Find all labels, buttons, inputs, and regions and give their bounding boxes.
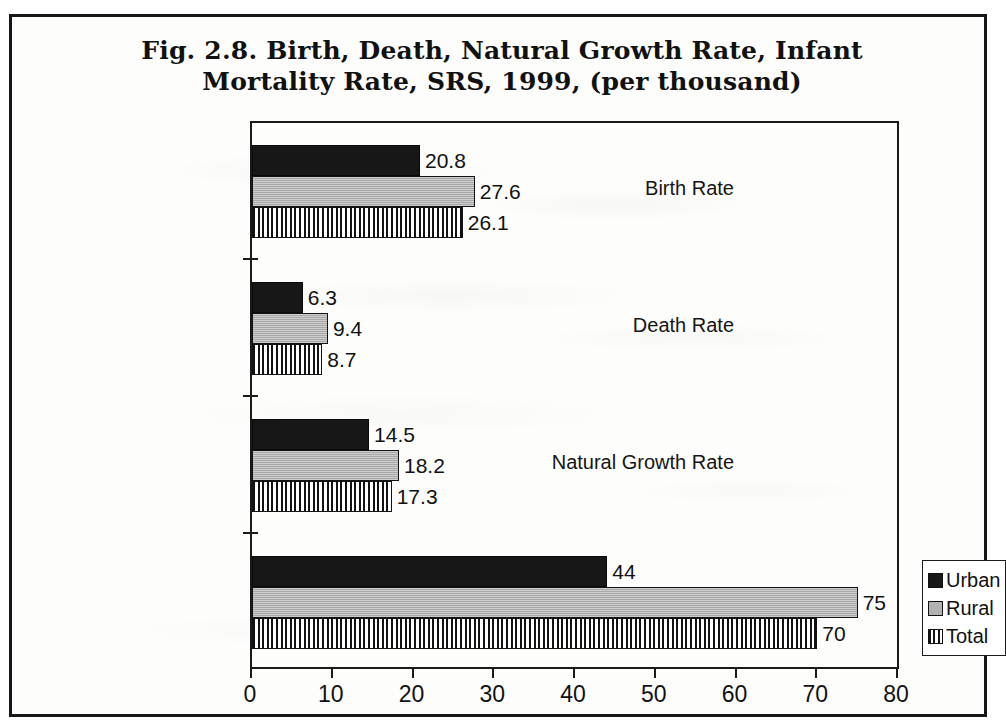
bar-rural[interactable]: [252, 176, 475, 207]
bar-row: 70: [252, 618, 901, 649]
bar-urban[interactable]: [252, 145, 420, 176]
bar-value-label: 27.6: [475, 180, 521, 204]
x-axis-tick-label: 40: [560, 681, 586, 708]
x-axis-tick-label: 60: [722, 681, 748, 708]
vertical-stripe-swatch-icon: [928, 629, 943, 644]
bar-value-label: 70: [817, 622, 845, 646]
bar-row: 8.7: [252, 344, 901, 375]
bar-value-label: 20.8: [420, 149, 466, 173]
chart-legend: UrbanRuralTotal: [922, 560, 1006, 656]
bar-group: 447570: [252, 556, 897, 649]
bar-row: 17.3: [252, 481, 901, 512]
bar-total[interactable]: [252, 618, 817, 649]
x-axis-tick-label: 50: [641, 681, 667, 708]
bar-row: 6.3: [252, 282, 901, 313]
bar-row: 27.6: [252, 176, 901, 207]
x-axis-tick-label: 30: [479, 681, 505, 708]
legend-label: Total: [946, 626, 988, 646]
bar-group: 20.827.626.1: [252, 145, 897, 238]
bar-row: 9.4: [252, 313, 901, 344]
solid-black-swatch-icon: [928, 573, 943, 588]
x-axis-tick-label: 10: [318, 681, 344, 708]
bar-value-label: 8.7: [322, 348, 356, 372]
x-axis-tick: [896, 669, 898, 678]
bar-rural[interactable]: [252, 313, 328, 344]
x-axis-tick: [412, 669, 414, 678]
legend-label: Urban: [946, 570, 1000, 590]
x-axis-tick-label: 70: [802, 681, 828, 708]
bar-rural[interactable]: [252, 450, 399, 481]
x-axis-tick: [492, 669, 494, 678]
x-axis-tick-label: 20: [399, 681, 425, 708]
x-axis-tick: [573, 669, 575, 678]
x-axis-tick: [735, 669, 737, 678]
bar-urban[interactable]: [252, 282, 303, 313]
bar-value-label: 14.5: [369, 423, 415, 447]
bar-rural[interactable]: [252, 587, 858, 618]
bar-group: 6.39.48.7: [252, 282, 897, 375]
x-axis-tick: [815, 669, 817, 678]
solid-gray-swatch-icon: [928, 601, 943, 616]
x-axis-tick-label: 80: [883, 681, 909, 708]
x-axis-tick: [331, 669, 333, 678]
bar-row: 18.2: [252, 450, 901, 481]
bar-total[interactable]: [252, 481, 392, 512]
chart-title-line-1: Fig. 2.8. Birth, Death, Natural Growth R…: [141, 36, 863, 65]
bar-row: 14.5: [252, 419, 901, 450]
bar-row: 26.1: [252, 207, 901, 238]
bar-value-label: 26.1: [463, 211, 509, 235]
x-axis-tick: [250, 669, 252, 678]
plot-area: 20.827.626.16.39.48.714.518.217.3447570: [250, 121, 899, 669]
bar-row: 20.8: [252, 145, 901, 176]
bar-total[interactable]: [252, 207, 463, 238]
legend-item-rural[interactable]: Rural: [928, 594, 1001, 622]
x-axis-tick-label: 0: [244, 681, 257, 708]
bar-value-label: 9.4: [328, 317, 362, 341]
bar-urban[interactable]: [252, 419, 369, 450]
bar-group: 14.518.217.3: [252, 419, 897, 512]
legend-item-total[interactable]: Total: [928, 622, 1001, 650]
bar-value-label: 75: [858, 591, 886, 615]
bar-urban[interactable]: [252, 556, 607, 587]
bar-value-label: 6.3: [303, 286, 337, 310]
legend-label: Rural: [946, 598, 994, 618]
chart-title-line-2: Mortality Rate, SRS, 1999, (per thousand…: [132, 66, 872, 97]
bar-total[interactable]: [252, 344, 322, 375]
bar-row: 75: [252, 587, 901, 618]
chart-title: Fig. 2.8. Birth, Death, Natural Growth R…: [132, 35, 872, 97]
figure-frame: Fig. 2.8. Birth, Death, Natural Growth R…: [9, 14, 987, 717]
bar-row: 44: [252, 556, 901, 587]
bar-value-label: 18.2: [399, 454, 445, 478]
legend-item-urban[interactable]: Urban: [928, 566, 1001, 594]
x-axis-tick: [654, 669, 656, 678]
bar-value-label: 44: [607, 560, 635, 584]
bar-value-label: 17.3: [392, 485, 438, 509]
